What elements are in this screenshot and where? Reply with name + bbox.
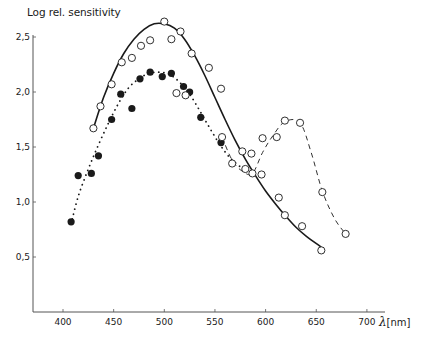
filled-circle-marker — [168, 70, 175, 77]
open-circle-marker — [118, 59, 125, 66]
open-circle-marker — [275, 194, 282, 201]
filled-circle-marker — [197, 114, 204, 121]
open-circle-marker — [90, 125, 97, 132]
y-tick-label: 0,5 — [16, 252, 30, 262]
open-circle-marker — [217, 85, 224, 92]
open-circle-marker — [229, 160, 236, 167]
plot-area: 0,51,01,52,02,5400450500550600650700 — [0, 0, 423, 339]
open-circle-marker — [239, 148, 246, 155]
filled-circle-marker — [136, 75, 143, 82]
open-circle-marker — [248, 150, 255, 157]
open-circle-marker — [205, 64, 212, 71]
open-circle-marker — [318, 247, 325, 254]
filled-circle-marker — [75, 172, 82, 179]
filled-circle-marker — [108, 116, 115, 123]
open-circle-marker — [281, 212, 288, 219]
open-circle-marker — [249, 170, 256, 177]
y-tick-label: 1,0 — [16, 197, 31, 207]
x-tick-label: 450 — [105, 317, 122, 327]
y-tick-label: 2,0 — [16, 87, 31, 97]
curves — [71, 23, 346, 247]
axes: 0,51,01,52,02,5400450500550600650700 — [16, 32, 385, 327]
x-tick-label: 500 — [156, 317, 173, 327]
x-tick-label: 650 — [308, 317, 325, 327]
open-circle-marker — [168, 36, 175, 43]
filled-circle-marker — [147, 69, 154, 76]
y-tick-label: 1,5 — [16, 142, 30, 152]
open-circle-marker — [281, 117, 288, 124]
open-circle-marker — [108, 81, 115, 88]
open-circle-marker — [273, 134, 280, 141]
open-circle-marker — [258, 171, 265, 178]
filled-circle-marker — [180, 83, 187, 90]
x-tick-label: 600 — [257, 317, 274, 327]
open-circle-marker — [218, 134, 225, 141]
filled-circle-marker — [117, 91, 124, 98]
open-circle-marker — [173, 90, 180, 97]
open-circle-marker — [137, 42, 144, 49]
open-circle-marker — [259, 135, 266, 142]
open-circle-marker — [298, 223, 305, 230]
open-circle-marker — [296, 119, 303, 126]
filled-circle-marker — [128, 105, 135, 112]
open-circle-marker — [177, 28, 184, 35]
open-circle-marker — [188, 50, 195, 57]
filled-circle-marker — [68, 218, 75, 225]
open-circle-marker — [182, 92, 189, 99]
x-tick-label: 400 — [54, 317, 71, 327]
open-circle-marker — [97, 103, 104, 110]
open-circle-marker — [147, 37, 154, 44]
x-tick-label: 550 — [206, 317, 223, 327]
x-tick-label: 700 — [358, 317, 375, 327]
filled-circle-marker — [88, 170, 95, 177]
series-curve-dotted — [71, 72, 240, 224]
open-circle-marker — [161, 18, 168, 25]
data-markers — [68, 18, 350, 254]
open-circle-marker — [242, 165, 249, 172]
open-circle-marker — [342, 230, 349, 237]
y-tick-label: 2,5 — [16, 32, 30, 42]
open-circle-marker — [128, 54, 135, 61]
filled-circle-marker — [159, 73, 166, 80]
filled-circle-marker — [95, 152, 102, 159]
open-circle-marker — [319, 189, 326, 196]
